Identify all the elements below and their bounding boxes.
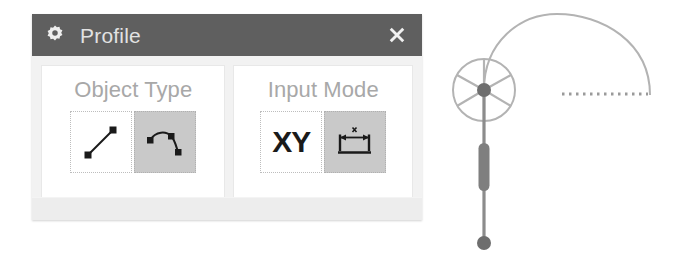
tool-button-line[interactable]	[70, 111, 132, 173]
group-label-input-mode: Input Mode	[268, 70, 379, 111]
dimension-span-icon	[332, 119, 378, 165]
profile-handle-graphic	[432, 0, 677, 264]
gear-icon	[44, 24, 66, 46]
line-segment-icon	[78, 119, 124, 165]
close-button[interactable]	[382, 20, 412, 50]
dialog-footer	[32, 197, 422, 220]
button-row-object-type	[70, 111, 196, 173]
dialog-body: Object Type	[32, 56, 422, 220]
profile-arc	[484, 14, 650, 95]
stem-thick-segment[interactable]	[479, 143, 490, 191]
group-label-object-type: Object Type	[74, 70, 192, 111]
tool-button-xy[interactable]: XY	[260, 111, 322, 173]
button-row-input-mode: XY	[260, 111, 386, 173]
dialog-title: Profile	[80, 25, 141, 46]
hub-node[interactable]	[477, 83, 491, 97]
spline-curve-icon	[142, 119, 188, 165]
tool-button-curve[interactable]	[134, 111, 196, 173]
stem-end-node[interactable]	[477, 236, 491, 250]
dialog-titlebar: Profile	[32, 14, 422, 56]
xy-text-icon: XY	[272, 127, 310, 157]
profile-dialog: Profile Object Type	[32, 14, 422, 220]
close-icon	[387, 25, 407, 45]
tool-button-dimension[interactable]	[324, 111, 386, 173]
